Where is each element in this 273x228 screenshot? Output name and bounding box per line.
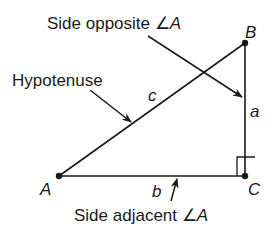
vertex-a-label: A bbox=[39, 180, 51, 199]
side-b-label: b bbox=[152, 182, 161, 201]
hypotenuse-arrow-icon bbox=[90, 90, 131, 122]
side-c-hypotenuse bbox=[59, 43, 245, 176]
vertex-b-label: B bbox=[245, 23, 256, 42]
adjacent-annotation: Side adjacent ∠A bbox=[74, 206, 208, 225]
side-a-label: a bbox=[250, 102, 259, 121]
vertex-c-dot bbox=[242, 173, 248, 179]
hypotenuse-annotation: Hypotenuse bbox=[12, 71, 103, 90]
opposite-arrow-icon bbox=[148, 36, 242, 97]
side-c-label: c bbox=[148, 86, 157, 105]
adjacent-arrow-icon bbox=[171, 179, 177, 201]
right-triangle-diagram: A B C c a b Side opposite ∠A Hypotenuse … bbox=[0, 0, 273, 228]
vertex-a-dot bbox=[56, 173, 62, 179]
opposite-annotation: Side opposite ∠A bbox=[47, 14, 181, 33]
vertex-c-label: C bbox=[248, 180, 261, 199]
